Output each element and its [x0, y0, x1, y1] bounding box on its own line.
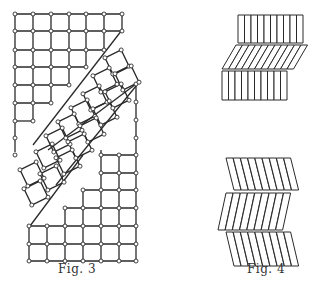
fig3-lattice — [13, 12, 141, 263]
fig4-caption: Fig. 4 — [247, 262, 285, 276]
fig3-caption: Fig. 3 — [58, 262, 96, 276]
diagram-canvas — [0, 0, 314, 294]
fig4-bars — [218, 15, 308, 266]
